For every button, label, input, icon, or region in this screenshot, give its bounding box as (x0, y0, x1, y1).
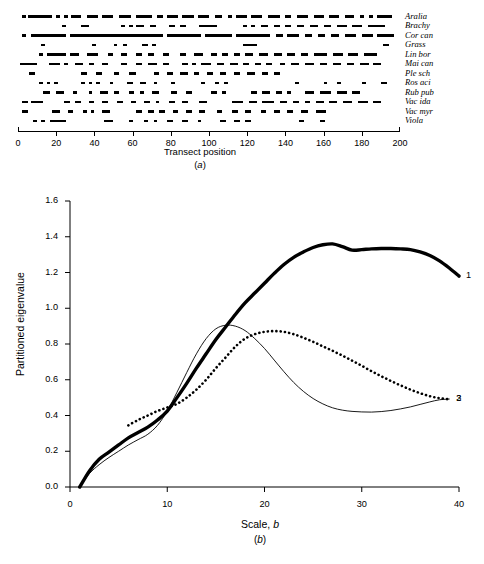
presence-segment (337, 25, 347, 28)
presence-segment (54, 82, 58, 85)
species-row (18, 12, 400, 22)
species-row (18, 107, 400, 117)
presence-segment (129, 72, 137, 75)
species-row (18, 50, 400, 60)
presence-segment (274, 25, 280, 28)
species-row (18, 60, 400, 70)
x-axis-tick-label: 30 (347, 499, 377, 509)
presence-segment (159, 110, 165, 113)
presence-segment (268, 15, 279, 18)
presence-segment (91, 110, 95, 113)
presence-segment (148, 110, 154, 113)
presence-segment (154, 72, 160, 75)
presence-segment (102, 110, 110, 113)
presence-segment (41, 44, 45, 47)
presence-segment (232, 101, 243, 104)
presence-segment (198, 120, 202, 123)
presence-segment (243, 63, 249, 66)
presence-segment (154, 120, 158, 123)
presence-segment (28, 15, 53, 18)
presence-segment (316, 110, 326, 113)
presence-segment (245, 110, 251, 113)
presence-segment (347, 63, 355, 66)
presence-segment (220, 72, 226, 75)
presence-segment (314, 53, 327, 56)
presence-segment (261, 25, 269, 28)
presence-segment (345, 34, 356, 37)
presence-segment (64, 63, 68, 66)
presence-segment (127, 82, 133, 85)
presence-segment (266, 63, 272, 66)
presence-segment (50, 120, 65, 123)
presence-segment (287, 53, 295, 56)
presence-segment (154, 82, 158, 85)
curve-1 (80, 244, 459, 487)
species-label: Vac ida (405, 97, 431, 106)
presence-segment (377, 34, 394, 37)
panel-b: Partitioned eigenvalue Scale, b (b) 0.00… (0, 180, 484, 564)
presence-segment (274, 110, 280, 113)
presence-segment (368, 25, 385, 28)
presence-segment (73, 91, 77, 94)
y-axis-tick-label: 0.6 (28, 374, 58, 384)
presence-segment (114, 72, 120, 75)
axis-tick (247, 131, 248, 136)
presence-segment (22, 101, 28, 104)
curve-label-1: 1 (466, 270, 471, 280)
presence-segment (136, 63, 142, 66)
panel-b-xlabel: Scale, b (60, 518, 460, 530)
presence-segment (329, 101, 337, 104)
curve-2 (128, 331, 449, 425)
presence-segment (199, 101, 207, 104)
y-axis-tick-label: 0.4 (28, 410, 58, 420)
x-axis-tick-label: 20 (250, 499, 280, 509)
presence-segment (228, 15, 232, 18)
presence-segment (140, 82, 146, 85)
curve-3 (80, 325, 450, 487)
axis-tick (362, 131, 363, 136)
presence-segment (211, 53, 217, 56)
y-axis-tick-label: 1.4 (28, 231, 58, 241)
presence-segment (329, 15, 339, 18)
presence-segment (70, 53, 80, 56)
x-axis-tick-label: 10 (152, 499, 182, 509)
presence-segment (169, 101, 175, 104)
presence-segment (87, 53, 98, 56)
presence-segment (110, 82, 114, 85)
presence-segment (305, 63, 315, 66)
presence-segment (215, 82, 219, 85)
species-row (18, 79, 400, 89)
presence-segment (31, 101, 42, 104)
presence-segment (333, 63, 341, 66)
species-label: Ros aci (405, 78, 431, 87)
presence-segment (324, 82, 328, 85)
presence-segment (102, 15, 113, 18)
presence-segment (136, 53, 142, 56)
species-row (18, 117, 400, 127)
presence-segment (92, 44, 96, 47)
presence-segment (352, 91, 360, 94)
axis-tick (399, 127, 400, 132)
presence-segment (43, 91, 51, 94)
species-row (18, 69, 400, 79)
presence-segment (381, 82, 387, 85)
presence-segment (373, 101, 381, 104)
presence-segment (68, 110, 74, 113)
presence-segment (102, 101, 108, 104)
plot-axes (65, 201, 459, 492)
presence-segment (96, 82, 100, 85)
presence-segment (337, 91, 347, 94)
presence-segment (198, 15, 209, 18)
presence-segment (47, 53, 66, 56)
presence-segment (83, 110, 87, 113)
presence-segment (150, 25, 156, 28)
presence-segment (217, 110, 223, 113)
presence-segment (251, 91, 257, 94)
species-label: Grass (405, 40, 426, 49)
presence-segment (96, 72, 102, 75)
eigenvalue-plot (0, 180, 484, 510)
presence-segment (324, 25, 332, 28)
presence-segment (369, 15, 373, 18)
presence-segment (20, 63, 37, 66)
presence-segment (87, 15, 98, 18)
